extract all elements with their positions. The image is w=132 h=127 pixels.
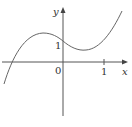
y-tick-label-1: 1 bbox=[55, 40, 61, 51]
y-axis-arrow-icon bbox=[61, 7, 66, 13]
x-axis-arrow-icon bbox=[122, 60, 128, 65]
x-axis-label: x bbox=[122, 66, 128, 77]
x-tick-label-1: 1 bbox=[101, 66, 107, 77]
graph-canvas: y x 0 1 1 bbox=[0, 0, 132, 127]
origin-label: 0 bbox=[55, 65, 61, 76]
y-axis-label: y bbox=[52, 6, 59, 17]
